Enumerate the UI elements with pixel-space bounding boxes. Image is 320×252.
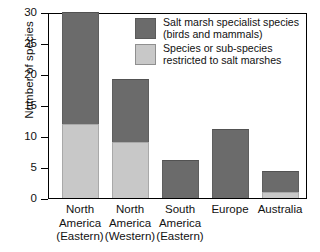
bar-south-america-eastern[interactable] <box>162 160 199 198</box>
bar-segment-dark <box>112 79 149 142</box>
y-tick-label-20: 20 <box>0 69 37 81</box>
y-tick-label-10: 10 <box>0 131 37 143</box>
bar-segment-dark <box>162 160 199 198</box>
y-tick-label-0: 0 <box>0 193 37 205</box>
y-tick-25 <box>41 44 48 45</box>
y-tick-label-15: 15 <box>0 100 37 112</box>
bar-segment-light <box>62 124 99 198</box>
legend-entry-specialist[interactable]: Salt marsh specialist species (birds and… <box>135 17 303 40</box>
x-tick-label-australia: Australia <box>244 203 316 217</box>
y-tick-30 <box>41 13 48 14</box>
dark-gray-swatch-icon <box>135 18 156 39</box>
y-tick-label-25: 25 <box>0 38 37 50</box>
bar-segment-dark <box>62 12 99 124</box>
light-gray-swatch-icon <box>135 44 156 65</box>
bar-europe[interactable] <box>212 129 249 198</box>
y-tick-label-30: 30 <box>0 7 37 19</box>
bar-north-america-western[interactable] <box>112 79 149 198</box>
y-tick-label-5: 5 <box>0 162 37 174</box>
plot-area: Salt marsh specialist species (birds and… <box>48 13 307 199</box>
bar-north-america-eastern[interactable] <box>62 12 99 198</box>
legend-entry-restricted[interactable]: Species or sub-species restricted to sal… <box>135 43 303 66</box>
y-tick-5 <box>41 168 48 169</box>
y-tick-15 <box>41 106 48 107</box>
legend-label: Species or sub-species restricted to sal… <box>163 43 281 66</box>
y-tick-0 <box>41 199 48 200</box>
legend: Salt marsh specialist species (birds and… <box>135 17 303 69</box>
bar-segment-light <box>112 142 149 198</box>
stacked-bar-chart: Number of species 30 25 20 15 10 5 0 <box>0 0 320 252</box>
bar-segment-dark <box>262 171 299 193</box>
y-tick-10 <box>41 137 48 138</box>
bar-australia[interactable] <box>262 171 299 198</box>
legend-label: Salt marsh specialist species (birds and… <box>163 17 299 40</box>
y-tick-20 <box>41 75 48 76</box>
bar-segment-dark <box>212 129 249 198</box>
bar-segment-light <box>262 192 299 198</box>
